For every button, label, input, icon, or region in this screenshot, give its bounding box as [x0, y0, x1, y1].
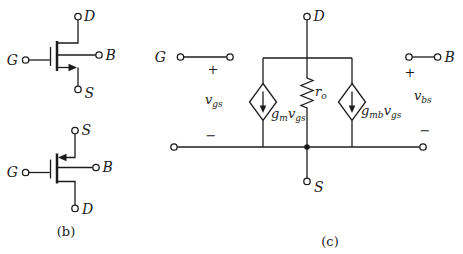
terminal-node [304, 178, 310, 184]
terminal-node [420, 144, 426, 150]
terminal-node [75, 13, 81, 19]
terminal-label-drain: D [313, 8, 325, 24]
gmb-var-sub: gs [391, 110, 402, 120]
wire [66, 134, 75, 158]
wire [57, 182, 75, 206]
vgs-sub: gs [212, 99, 223, 109]
terminal-label-source: S [85, 85, 95, 101]
terminal-node [406, 54, 412, 60]
vbs-minus-sign: − [420, 123, 431, 138]
terminal-node [227, 54, 233, 60]
terminal-label-source: S [82, 122, 92, 138]
mosfet-figure: G D B S G S B D (b) [0, 0, 463, 254]
terminal-node [171, 144, 177, 150]
current-arrow-icon [349, 106, 356, 114]
vbs-plus-sign: + [405, 65, 416, 80]
gm-dependent-source: gmvgs [250, 84, 306, 148]
ro-resistor [301, 75, 313, 111]
terminal-label-gate: G [7, 164, 18, 180]
vbs-sub: bs [421, 95, 432, 105]
terminal-node [93, 164, 99, 170]
terminal-label-body: B [102, 159, 113, 175]
gmb-dependent-source: gmbvgs [339, 84, 402, 148]
pmos-symbol-4terminal: G S B D [7, 122, 113, 217]
terminal-node [304, 13, 310, 19]
terminal-node [72, 127, 78, 133]
terminal-node [434, 54, 440, 60]
caption-c: (c) [321, 234, 338, 249]
terminal-label-drain: D [83, 8, 95, 24]
terminal-node [22, 169, 28, 175]
ro-label: ro [315, 84, 327, 101]
terminal-node [22, 57, 28, 63]
terminal-node [96, 52, 102, 58]
wire [57, 20, 78, 43]
circuit-diagram-svg: G D B S G S B D (b) [0, 0, 463, 254]
terminal-label-body: B [444, 49, 455, 65]
gm-coeff-sub: m [279, 113, 288, 123]
terminal-node [72, 205, 78, 211]
terminal-label-body: B [105, 47, 116, 63]
terminal-label-gate: G [155, 49, 166, 65]
caption-b: (b) [57, 224, 75, 239]
terminal-node [177, 54, 183, 60]
terminal-node [75, 86, 81, 92]
gmb-coeff: g [361, 103, 369, 118]
ro-sub: o [321, 91, 327, 101]
vgs-minus-sign: − [206, 128, 217, 143]
nmos-symbol-4terminal: G D B S [7, 8, 116, 101]
gmb-coeff-sub: mb [369, 110, 384, 120]
gm-source-label: gmvgs [271, 106, 306, 123]
gm-coeff: g [271, 106, 279, 121]
vgs-label: vgs [205, 92, 223, 109]
terminal-label-gate: G [7, 52, 18, 68]
source-arrow-icon [69, 64, 78, 71]
vbs-label: vbs [414, 88, 432, 105]
terminal-label-source: S [314, 179, 324, 195]
source-arrow-icon [58, 154, 67, 161]
terminal-label-drain: D [81, 201, 93, 217]
current-arrow-icon [260, 106, 267, 114]
gm-var-sub: gs [295, 113, 306, 123]
small-signal-model: G + vgs − B + vbs − D ro gmvgs [155, 8, 455, 195]
gmb-source-label: gmbvgs [361, 103, 402, 120]
vgs-plus-sign: + [208, 62, 219, 77]
